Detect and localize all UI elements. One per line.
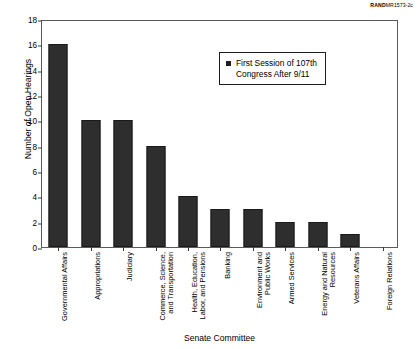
x-tick-mark [58, 247, 59, 251]
x-category-label: Judiciary [126, 252, 134, 281]
legend-label-line: Congress After 9/11 [236, 69, 317, 80]
source-credit: RANDMR1573-2c [370, 3, 413, 8]
x-category-label-line: Appropriations [93, 252, 102, 300]
bar-slot [74, 21, 106, 247]
y-tick-label: 14 [28, 68, 37, 76]
x-category-label-line: and Transportation [167, 252, 175, 321]
x-category-label: Environment andPublic Works [256, 252, 273, 308]
x-tick-mark [383, 247, 384, 251]
figure: RANDMR1573-2c Number of Open Hearings 02… [0, 0, 419, 349]
bar[interactable] [308, 222, 327, 247]
x-tick-mark [285, 247, 286, 251]
y-tick-mark [38, 249, 42, 250]
bar[interactable] [211, 209, 230, 247]
x-axis-title: Senate Committee [41, 333, 398, 343]
bar-slot [334, 21, 366, 247]
source-credit-document-id: MR1573-2c [386, 2, 413, 8]
bar[interactable] [341, 234, 360, 247]
x-category-label-line: Labor, and Pensions [199, 252, 207, 319]
x-category-label-line: Banking [223, 252, 232, 279]
x-tick-mark [350, 247, 351, 251]
source-credit-brand: RAND [370, 2, 385, 8]
x-axis-category-labels: Governmental AffairsAppropriationsJudici… [41, 252, 398, 328]
bar[interactable] [81, 120, 100, 247]
y-tick-label: 12 [28, 93, 37, 101]
x-category-label: Banking [224, 252, 232, 279]
legend-label-line: First Session of 107th [236, 58, 317, 68]
bar[interactable] [49, 44, 68, 247]
bar[interactable] [114, 120, 133, 247]
y-tick-label: 6 [32, 169, 37, 177]
x-category-label-line: Public Works [264, 252, 272, 308]
x-category-label: Commerce, Science,and Transportation [159, 252, 176, 321]
y-tick-label: 2 [32, 220, 37, 228]
x-category-label-line: Foreign Relations [385, 252, 394, 310]
x-category-label: Governmental Affairs [61, 252, 69, 321]
x-category-label-line: Governmental Affairs [60, 252, 69, 321]
x-tick-mark [318, 247, 319, 251]
bar[interactable] [179, 196, 198, 247]
x-tick-mark [188, 247, 189, 251]
x-category-label: Appropriations [94, 252, 102, 300]
y-tick-label: 16 [28, 42, 37, 50]
bar[interactable] [276, 222, 295, 247]
legend: First Session of 107thCongress After 9/1… [219, 52, 326, 85]
x-tick-mark [253, 247, 254, 251]
y-tick-label: 8 [32, 144, 37, 152]
legend-swatch-icon [226, 61, 231, 66]
x-category-label-line: Commerce, Science, [158, 252, 167, 321]
bar-slot [172, 21, 204, 247]
x-category-label-line: Judiciary [125, 252, 134, 281]
y-tick-label: 4 [32, 194, 37, 202]
bar[interactable] [243, 209, 262, 247]
x-category-label: Energy and NaturalResources [321, 252, 338, 316]
bar-slot [367, 21, 399, 247]
x-category-label: Health, Education,Labor, and Pensions [191, 252, 208, 319]
x-category-label-line: Veterans Affairs [352, 252, 361, 304]
bar-slot [107, 21, 139, 247]
x-tick-mark [156, 247, 157, 251]
bar-slot [42, 21, 74, 247]
x-tick-mark [123, 247, 124, 251]
y-axis-title: Number of Open Hearings [23, 9, 33, 209]
y-tick-label: 10 [28, 118, 37, 126]
bar[interactable] [146, 146, 165, 247]
x-tick-mark [91, 247, 92, 251]
x-tick-mark [220, 247, 221, 251]
x-category-label: Armed Services [288, 252, 296, 304]
x-category-label: Veterans Affairs [353, 252, 361, 304]
y-tick-label: 0 [32, 245, 37, 253]
bar-slot [139, 21, 171, 247]
x-category-label: Foreign Relations [386, 252, 394, 310]
y-tick-label: 18 [28, 17, 37, 25]
legend-label: First Session of 107thCongress After 9/1… [236, 58, 317, 79]
x-category-label-line: Resources [329, 252, 337, 316]
x-category-label-line: Armed Services [287, 252, 296, 304]
